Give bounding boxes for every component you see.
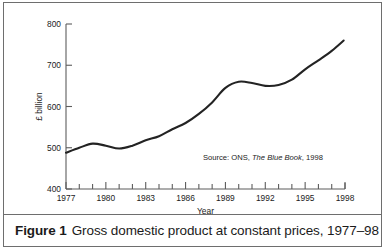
x-tick-label: 1992 xyxy=(256,193,275,203)
x-tick-label: 1977 xyxy=(57,193,76,203)
gdp-data-line xyxy=(66,41,344,153)
figure-container: 4005006007008001977198019831986198919921… xyxy=(3,2,382,247)
caption-text: Gross domestic product at constant price… xyxy=(72,223,379,238)
y-tick-label: 500 xyxy=(47,143,61,153)
x-tick-label: 1998 xyxy=(336,193,355,203)
caption-number: Figure 1 xyxy=(15,223,67,238)
chart-region: 4005006007008001977198019831986198919921… xyxy=(4,3,381,214)
x-tick-label: 1995 xyxy=(296,193,315,203)
y-tick-label: 700 xyxy=(47,60,61,70)
figure-caption: Figure 1 Gross domestic product at const… xyxy=(4,215,381,246)
x-tick-label: 1983 xyxy=(136,193,155,203)
x-axis-title: Year xyxy=(197,206,214,214)
y-tick-label: 800 xyxy=(47,19,61,29)
x-tick-label: 1980 xyxy=(97,193,116,203)
x-tick-label: 1986 xyxy=(176,193,195,203)
y-tick-label: 600 xyxy=(47,102,61,112)
gdp-line-chart: 4005006007008001977198019831986198919921… xyxy=(4,3,381,214)
x-tick-label: 1989 xyxy=(216,193,235,203)
y-axis-title: £ billion xyxy=(34,92,44,121)
source-annotation: Source: ONS, The Blue Book, 1998 xyxy=(203,153,323,162)
